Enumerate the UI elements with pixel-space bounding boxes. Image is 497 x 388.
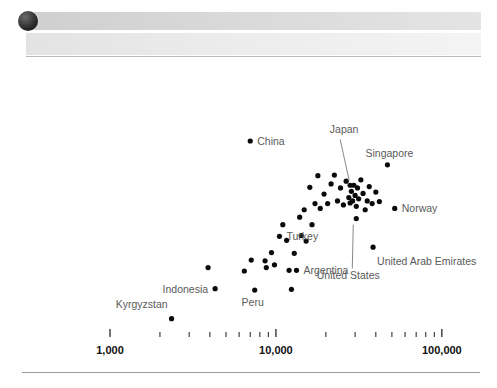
data-point — [321, 191, 326, 196]
data-point — [169, 316, 174, 321]
x-tick-label: 10,000 — [259, 344, 293, 356]
data-point — [252, 287, 257, 292]
data-point — [370, 201, 375, 206]
country-label: United Arab Emirates — [377, 255, 476, 267]
x-tick-label: 1,000 — [96, 344, 124, 356]
data-point — [289, 287, 294, 292]
data-point — [354, 216, 359, 221]
data-point — [355, 185, 360, 190]
data-point — [315, 173, 320, 178]
point-labels-layer: KyrgyzstanIndonesiaPeruTurkeyArgentinaSi… — [116, 123, 477, 309]
data-point — [242, 268, 247, 273]
data-point — [302, 207, 307, 212]
data-point — [318, 206, 323, 211]
data-point — [349, 189, 354, 194]
data-point — [312, 201, 317, 206]
data-point — [367, 184, 372, 189]
data-point — [341, 202, 346, 207]
data-point — [264, 265, 269, 270]
data-point — [325, 201, 330, 206]
data-point — [363, 207, 368, 212]
data-point — [385, 162, 390, 167]
country-label: Norway — [402, 202, 438, 214]
data-point — [338, 185, 343, 190]
axes-layer: 1,00010,000100,000 — [96, 329, 462, 356]
data-point — [307, 185, 312, 190]
x-tick-label: 100,000 — [422, 344, 462, 356]
data-point — [392, 206, 397, 211]
data-point — [373, 189, 378, 194]
country-label: Japan — [330, 123, 359, 135]
data-point — [249, 257, 254, 262]
data-point — [356, 196, 361, 201]
leader-line — [340, 139, 349, 180]
figure-root: 1,00010,000100,000 KyrgyzstanIndonesiaPe… — [0, 0, 497, 388]
data-point — [335, 198, 340, 203]
data-point — [213, 286, 218, 291]
data-point — [297, 215, 302, 220]
data-point — [328, 181, 333, 186]
scatter-plot: 1,00010,000100,000 KyrgyzstanIndonesiaPe… — [0, 0, 497, 388]
data-point — [350, 198, 355, 203]
data-point — [365, 198, 370, 203]
data-point — [348, 183, 353, 188]
data-point — [354, 204, 359, 209]
footer-divider — [22, 372, 480, 373]
leader-line — [352, 225, 353, 269]
data-point — [292, 251, 297, 256]
data-point — [269, 250, 274, 255]
data-point — [248, 138, 253, 143]
data-point — [358, 177, 363, 182]
country-label: Singapore — [366, 147, 414, 159]
country-label: United States — [317, 269, 380, 281]
data-point — [272, 262, 277, 267]
data-point — [309, 222, 314, 227]
data-point — [360, 191, 365, 196]
data-point — [344, 179, 349, 184]
country-label: Kyrgyzstan — [116, 298, 168, 310]
country-label: Peru — [242, 296, 264, 308]
data-point — [294, 268, 299, 273]
data-point — [262, 258, 267, 263]
country-label: Indonesia — [163, 283, 209, 295]
data-point — [370, 245, 375, 250]
data-point — [280, 222, 285, 227]
data-point — [277, 234, 282, 239]
data-point — [332, 172, 337, 177]
data-point — [205, 265, 210, 270]
country-label: China — [257, 135, 285, 147]
data-point — [377, 199, 382, 204]
data-point — [286, 268, 291, 273]
country-label: Turkey — [286, 230, 318, 242]
